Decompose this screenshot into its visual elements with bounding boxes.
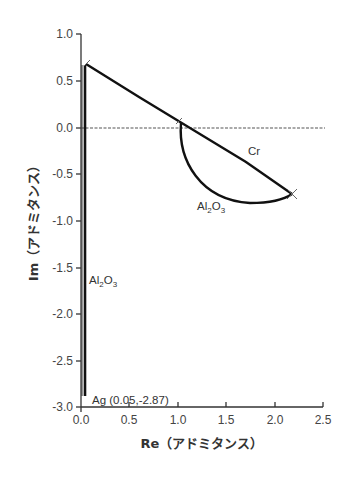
y-tick-label: -0.5	[52, 167, 73, 181]
annotation-ag: Ag (0.05,-2.87)	[92, 394, 169, 406]
y-tick-label: -1.5	[52, 261, 73, 275]
series-cr	[86, 64, 292, 194]
y-tick-label: -2.0	[52, 307, 73, 321]
x-tick-label: 1.5	[218, 413, 235, 427]
annotation-al2o3-arc: Al2O3	[197, 200, 226, 215]
x-axis-title: Re（アドミタンス）	[141, 436, 264, 451]
y-tick-label: 1.0	[56, 27, 73, 41]
admittance-chart: 1.0 0.5 0.0 -0.5 -1.0 -1.5 -2.0 -2.5 -3.…	[0, 0, 358, 490]
x-tick-labels: 0.0 0.5 1.0 1.5 2.0 2.5	[73, 413, 332, 427]
annotation-cr: Cr	[248, 145, 260, 157]
x-tick-label: 1.0	[170, 413, 187, 427]
x-tick-label: 0.0	[73, 413, 90, 427]
y-tick-label: 0.5	[56, 74, 73, 88]
x-tick-label: 0.5	[121, 413, 138, 427]
y-tick-label: -2.5	[52, 354, 73, 368]
x-tick-label: 2.0	[267, 413, 284, 427]
series-al2o3-arc	[181, 123, 292, 203]
y-axis-title: Im（アドミタンス）	[26, 159, 41, 281]
annotation-al2o3-left: Al2O3	[89, 274, 118, 289]
y-tick-label: 0.0	[56, 121, 73, 135]
y-tick-label: -1.0	[52, 214, 73, 228]
y-tick-label: -3.0	[52, 400, 73, 414]
y-axis	[76, 34, 81, 407]
y-tick-labels: 1.0 0.5 0.0 -0.5 -1.0 -1.5 -2.0 -2.5 -3.…	[52, 27, 73, 414]
x-tick-label: 2.5	[315, 413, 332, 427]
